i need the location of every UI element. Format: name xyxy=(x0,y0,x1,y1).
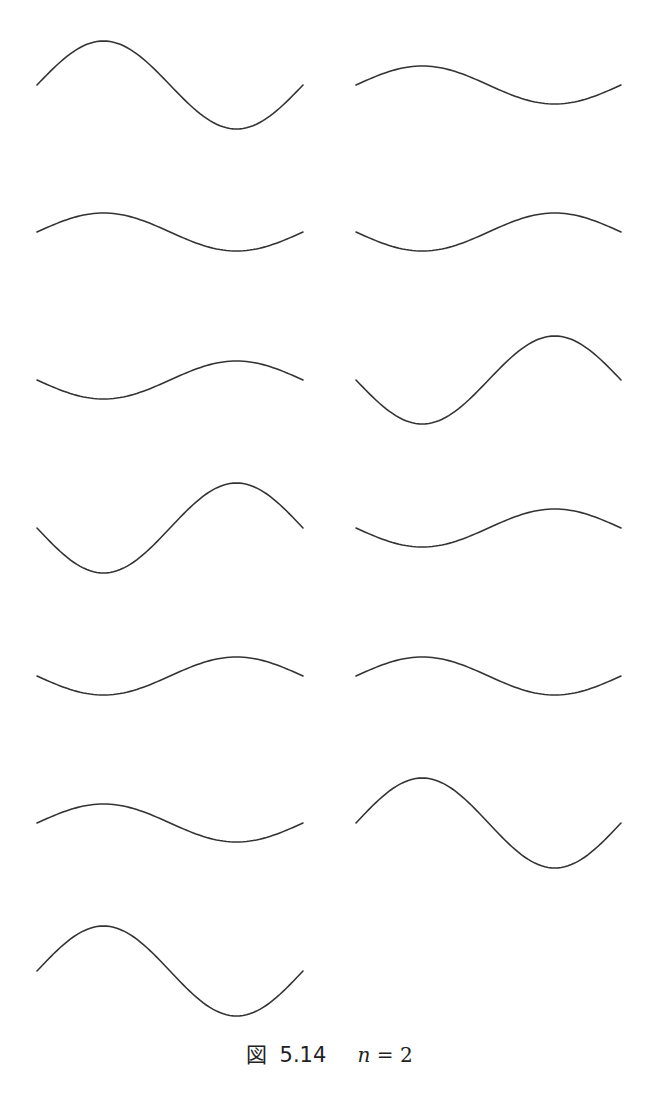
sinusoid-panel-8 xyxy=(356,509,621,547)
parameter-value: = 2 xyxy=(370,1043,412,1067)
sinusoid-panel-5 xyxy=(37,361,303,399)
figure-caption: 図 5.14 n = 2 xyxy=(0,1040,659,1070)
sinusoid-panel-10 xyxy=(356,657,621,695)
sinusoid-panel-6 xyxy=(356,336,621,424)
sinusoid-panel-3 xyxy=(37,213,303,251)
sinusoid-panel-4 xyxy=(356,213,621,251)
figure-parameter: n = 2 xyxy=(358,1043,413,1067)
sinusoid-panel-1 xyxy=(37,41,303,129)
sinusoid-panel-12 xyxy=(356,778,621,868)
parameter-variable: n xyxy=(358,1043,371,1067)
figure-number: 5.14 xyxy=(280,1043,327,1067)
sinusoid-panel-13 xyxy=(37,926,303,1016)
sinusoid-panel-9 xyxy=(37,657,303,695)
sinusoid-panel-2 xyxy=(356,66,621,104)
figure-label: 図 xyxy=(246,1043,268,1067)
sinusoid-grid-figure xyxy=(0,0,659,1112)
sinusoid-panel-11 xyxy=(37,804,303,842)
sinusoid-panel-7 xyxy=(37,483,303,573)
